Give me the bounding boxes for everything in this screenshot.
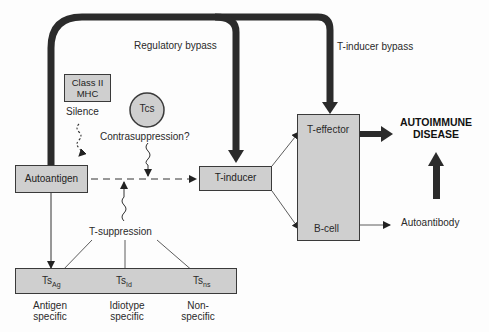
autoimmune-line1: AUTOIMMUNE [394,116,478,128]
regulatory-bypass-path [215,17,236,152]
regulatory-bypass-arrowhead [228,150,244,163]
t-inducer-bypass-label: T-inducer bypass [337,41,413,52]
t-inducer-bypass-arrowhead [322,102,338,114]
regulatory-bypass-label: Regulatory bypass [134,40,217,51]
silence-label: Silence [66,106,99,117]
t-inducer-node: T-inducer [199,166,272,191]
non-specific-label: Non-specific [170,300,226,322]
class-ii-mhc-node: Class II MHC [64,74,111,102]
effector-disease-arrowhead [381,126,393,142]
class-ii-mhc-line2: MHC [65,88,110,99]
diagram-canvas: Regulatory bypass T-inducer bypass Class… [0,0,489,332]
autoimmune-line2: DISEASE [394,128,478,140]
ts-ag-label: TsAg [42,275,61,288]
class-ii-mhc-line1: Class II [65,77,110,88]
contrasuppression-label: Contrasuppression? [100,131,190,142]
ts-ns-label: Tsns [193,275,210,288]
idiotype-specific-label: Idiotypespecific [97,300,157,322]
ts-id-label: TsId [116,275,132,288]
autoantigen-node: Autoantigen [15,165,88,193]
autoantibody-disease-arrowhead [428,152,444,166]
b-cell-label: B-cell [314,223,339,234]
t-suppression-label: T-suppression [89,226,152,237]
t-effector-label: T-effector [307,124,349,135]
antigen-specific-label: Antigenspecific [22,300,78,322]
autoimmune-disease-label: AUTOIMMUNE DISEASE [394,116,478,140]
tcs-label: Tcs [130,103,164,114]
autoantibody-label: Autoantibody [401,217,459,228]
